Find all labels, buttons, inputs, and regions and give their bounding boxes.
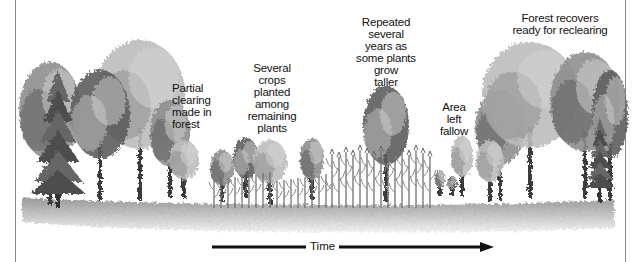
time-arrow	[212, 240, 494, 254]
label-line: Repeated	[350, 16, 422, 28]
label-line: some plants	[350, 52, 422, 64]
label-line: forest	[172, 118, 222, 130]
tree-group	[19, 40, 628, 208]
label-line: Several	[242, 62, 302, 74]
maize-plant	[361, 148, 373, 208]
label-crops-planted: Several crops planted among remaining pl…	[242, 62, 302, 134]
label-line: Forest recovers	[500, 12, 620, 24]
label-partial-clearing: Partial clearing made in forest	[172, 82, 222, 130]
label-line: among	[242, 98, 302, 110]
label-line: Partial	[172, 82, 222, 94]
shifting-cultivation-illustration	[0, 0, 642, 262]
label-line: taller	[350, 76, 422, 88]
crop-plant	[321, 174, 331, 208]
label-line: remaining	[242, 110, 302, 122]
label-line: crops	[242, 74, 302, 86]
label-line: plants	[242, 122, 302, 134]
label-line: years as	[350, 40, 422, 52]
time-arrow-head	[480, 242, 494, 252]
label-line: ready for reclearing	[500, 24, 620, 36]
label-line: fallow	[436, 125, 472, 137]
label-forest-recovers: Forest recovers ready for reclearing	[500, 12, 620, 36]
time-axis-label: Time	[306, 239, 339, 253]
maize-plant	[347, 150, 359, 208]
maize-plant	[424, 151, 436, 208]
label-line: clearing	[172, 94, 222, 106]
broadleaf-tree	[435, 170, 445, 196]
label-line: made in	[172, 106, 222, 118]
label-line: Area	[436, 101, 472, 113]
ground-strip	[22, 198, 614, 233]
label-line: several	[350, 28, 422, 40]
label-repeated: Repeated several years as some plants gr…	[350, 16, 422, 88]
broadleaf-tree	[169, 140, 199, 198]
label-line: grow	[350, 64, 422, 76]
broadleaf-tree	[447, 176, 457, 196]
maize-plant	[333, 152, 345, 208]
label-line: left	[436, 113, 472, 125]
maize-plant	[326, 149, 338, 208]
maize-plant	[403, 150, 415, 208]
label-line: planted	[242, 86, 302, 98]
label-fallow: Area left fallow	[436, 101, 472, 137]
maize-plant	[417, 148, 429, 208]
